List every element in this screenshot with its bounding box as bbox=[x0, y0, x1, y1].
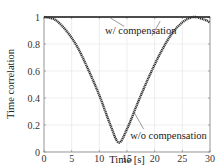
y-tick-label: 0.8 bbox=[28, 39, 41, 50]
annotations: w/ compensationw/o compensation bbox=[105, 18, 207, 141]
x-tick-label: 25 bbox=[177, 153, 187, 164]
annotation-wo-compensation: w/o compensation bbox=[130, 130, 207, 141]
x-tick-label: 5 bbox=[69, 153, 74, 164]
x-tick-label: 10 bbox=[94, 153, 104, 164]
y-tick-label: 0.2 bbox=[28, 120, 41, 131]
x-tick-label: 0 bbox=[42, 153, 47, 164]
time-correlation-chart: 05101520253000.20.40.60.81 w/ compensati… bbox=[0, 0, 223, 165]
leader-line bbox=[134, 112, 144, 130]
x-tick-label: 30 bbox=[205, 153, 215, 164]
x-axis-label: Time [s] bbox=[109, 154, 145, 165]
x-tick-label: 20 bbox=[150, 153, 160, 164]
y-tick-label: 0 bbox=[35, 147, 40, 158]
y-tick-label: 0.4 bbox=[28, 93, 41, 104]
y-axis-label: Time correlation bbox=[5, 48, 16, 119]
annotation-w-compensation: w/ compensation bbox=[105, 25, 177, 36]
y-tick-label: 0.6 bbox=[28, 66, 41, 77]
y-tick-label: 1 bbox=[35, 12, 40, 23]
